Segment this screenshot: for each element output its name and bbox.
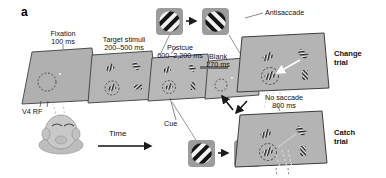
label-no-saccade: No saccade 800 ms — [253, 94, 315, 110]
paradigm-diagram — [0, 0, 386, 178]
inset-grating-pre-change — [156, 8, 183, 35]
screen-catch-trial — [235, 111, 327, 176]
screen-fixation — [22, 48, 98, 104]
label-fixation: Fixation 100 ms — [33, 30, 93, 46]
monkey-head — [39, 115, 83, 154]
label-catch-trial: Catch trial — [334, 129, 355, 146]
label-v4-rf: V4 RF — [22, 108, 42, 116]
figure-panel-a: a — [0, 0, 386, 178]
label-cue: Cue — [164, 120, 177, 128]
branch-arrow-change — [222, 96, 233, 110]
inset-grating-pre-catch — [188, 140, 215, 167]
branch-arrow-catch — [236, 101, 247, 113]
label-blank: Blank 270 ms — [196, 53, 240, 69]
inset-grating-post-change — [202, 8, 229, 35]
label-time-axis: Time — [109, 130, 126, 138]
leader-inset-change — [229, 35, 241, 55]
label-antisaccade: Antisaccade — [265, 9, 304, 17]
leader-cue — [170, 98, 176, 120]
label-change-trial: Change trial — [334, 50, 362, 67]
leader-antisaccade — [245, 13, 263, 18]
